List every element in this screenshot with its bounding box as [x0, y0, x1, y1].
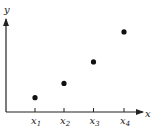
- data-point: [61, 81, 66, 86]
- x-tick-label: x3: [90, 115, 101, 128]
- data-point: [121, 29, 126, 34]
- data-point: [32, 95, 37, 100]
- y-axis-label: y: [3, 4, 10, 15]
- x-tick-label: x1: [31, 115, 41, 128]
- x-axis-label: x: [145, 108, 151, 119]
- scatter-chart: y x x1x2x3x4: [0, 0, 156, 128]
- x-tick-label: x2: [60, 115, 71, 128]
- data-point: [91, 59, 96, 64]
- x-tick-label: x4: [120, 115, 130, 128]
